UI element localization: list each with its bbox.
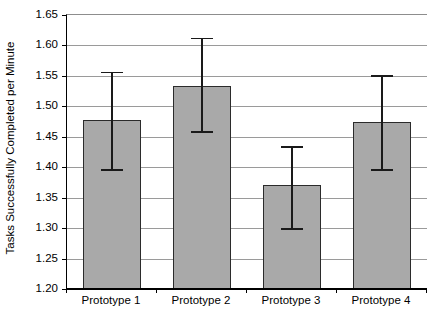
- error-bar-cap-upper: [281, 146, 303, 148]
- y-axis-tick: [62, 45, 67, 46]
- y-axis-title: Tasks Successfully Completed per Minute: [0, 0, 20, 295]
- y-axis-tick-labels: 1.651.601.551.501.451.401.351.301.251.20: [20, 0, 62, 317]
- gridline: [67, 106, 427, 107]
- error-bar-cap-lower: [191, 131, 213, 133]
- y-axis-tick: [62, 198, 67, 199]
- error-bar-stem: [111, 72, 113, 169]
- error-bar-cap-upper: [191, 38, 213, 40]
- y-axis-tick: [62, 259, 67, 260]
- error-bar-cap-upper: [371, 75, 393, 77]
- y-axis-tick: [62, 137, 67, 138]
- y-axis-tick: [62, 167, 67, 168]
- y-axis-tick-label: 1.55: [36, 69, 58, 81]
- y-axis-tick: [62, 76, 67, 77]
- error-bar-cap-upper: [101, 72, 123, 74]
- error-bar-cap-lower: [371, 169, 393, 171]
- y-axis-tick-label: 1.50: [36, 99, 58, 111]
- error-bar-cap-lower: [281, 228, 303, 230]
- error-bar-stem: [201, 38, 203, 132]
- x-axis-tick: [66, 288, 67, 293]
- x-axis-tick: [156, 288, 157, 293]
- y-axis-tick: [62, 228, 67, 229]
- y-axis-tick-label: 1.30: [36, 221, 58, 233]
- y-axis-tick-label: 1.45: [36, 130, 58, 142]
- x-axis-label: Prototype 4: [352, 294, 411, 306]
- y-axis-tick-label: 1.35: [36, 191, 58, 203]
- y-axis-tick-label: 1.65: [36, 8, 58, 20]
- plot-area: [66, 14, 427, 289]
- gridline: [67, 45, 427, 46]
- error-bar-stem: [381, 75, 383, 169]
- x-axis-label: Prototype 1: [82, 294, 141, 306]
- x-axis-label: Prototype 2: [172, 294, 231, 306]
- y-axis-tick: [62, 106, 67, 107]
- y-axis-tick-label: 1.60: [36, 38, 58, 50]
- y-axis-tick-label: 1.20: [36, 282, 58, 294]
- y-axis-title-text: Tasks Successfully Completed per Minute: [4, 41, 16, 254]
- y-axis-tick-label: 1.40: [36, 160, 58, 172]
- error-bar-stem: [291, 146, 293, 228]
- x-axis-tick: [426, 288, 427, 293]
- y-axis-tick: [62, 15, 67, 16]
- error-bar-cap-lower: [101, 169, 123, 171]
- y-axis-tick-label: 1.25: [36, 252, 58, 264]
- bar-chart: Tasks Successfully Completed per Minute …: [0, 0, 432, 317]
- x-axis-tick: [336, 288, 337, 293]
- x-axis-label: Prototype 3: [262, 294, 321, 306]
- x-axis-tick: [246, 288, 247, 293]
